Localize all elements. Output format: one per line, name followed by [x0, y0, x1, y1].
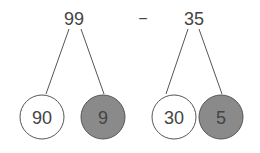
- number-bond-diagram: 99 90 9 − 35 30 5: [0, 0, 260, 153]
- left-part-2: 9: [98, 108, 108, 128]
- left-number-bond: 99 90 9: [20, 9, 125, 139]
- right-number-bond: 35 30 5: [152, 9, 243, 139]
- left-part-1: 90: [32, 108, 52, 128]
- right-branch-line: [199, 29, 222, 94]
- right-branch-line: [81, 29, 104, 94]
- left-branch-line: [166, 29, 188, 94]
- right-part-1: 30: [164, 108, 184, 128]
- right-part-2: 5: [216, 108, 226, 128]
- left-whole: 99: [64, 9, 84, 29]
- minus-operator: −: [138, 10, 147, 27]
- left-branch-line: [46, 29, 69, 94]
- right-whole: 35: [184, 9, 204, 29]
